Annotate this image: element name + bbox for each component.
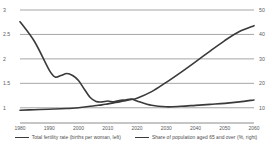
series-paths — [20, 22, 254, 110]
x-axis-tick: 1990 — [44, 125, 55, 130]
left-axis-tick: 1.5 — [3, 80, 10, 86]
chart-container: 11.522.53 1020304050 1980199020002010202… — [0, 0, 272, 152]
x-axis-tick: 2010 — [102, 125, 113, 130]
left-axis-tick-labels: 11.522.53 — [3, 7, 10, 111]
x-axis-tick: 2040 — [190, 125, 201, 130]
x-axis-tick: 2000 — [73, 125, 84, 130]
right-axis-tick: 20 — [259, 80, 265, 86]
x-axis-tick: 2020 — [131, 125, 142, 130]
chart-svg: 11.522.53 1020304050 1980199020002010202… — [0, 0, 272, 130]
chart-legend: Total fertility rate (births per woman, … — [0, 132, 272, 152]
legend-label-elderly-share: Share of population aged 65 and over (%,… — [152, 135, 257, 140]
legend-item-elderly-share: Share of population aged 65 and over (%,… — [135, 135, 257, 140]
x-axis-tick: 2030 — [161, 125, 172, 130]
gridlines — [20, 10, 254, 123]
x-axis-tick: 1980 — [14, 125, 25, 130]
legend-label-fertility: Total fertility rate (births per woman, … — [32, 135, 121, 140]
legend-line-swatch-fertility — [15, 137, 29, 138]
right-axis-tick: 50 — [259, 7, 265, 13]
left-axis-tick: 2 — [3, 56, 6, 62]
series-line-elderly-share — [20, 26, 254, 111]
plot-area: 11.522.53 1020304050 1980199020002010202… — [0, 0, 272, 130]
x-axis-tick: 2050 — [219, 125, 230, 130]
left-axis-tick: 1 — [3, 105, 6, 111]
right-axis-tick: 40 — [259, 31, 265, 37]
x-axis-tick-labels: 198019902000201020202030204020502060 — [14, 125, 259, 130]
legend-item-fertility: Total fertility rate (births per woman, … — [15, 135, 121, 140]
left-axis-tick: 3 — [3, 7, 6, 13]
right-axis-tick: 30 — [259, 56, 265, 62]
left-axis-tick: 2.5 — [3, 31, 10, 37]
right-axis-tick-labels: 1020304050 — [259, 7, 265, 111]
legend-line-swatch-elderly-share — [135, 137, 149, 138]
right-axis-tick: 10 — [259, 105, 265, 111]
x-axis-tick: 2060 — [248, 125, 259, 130]
